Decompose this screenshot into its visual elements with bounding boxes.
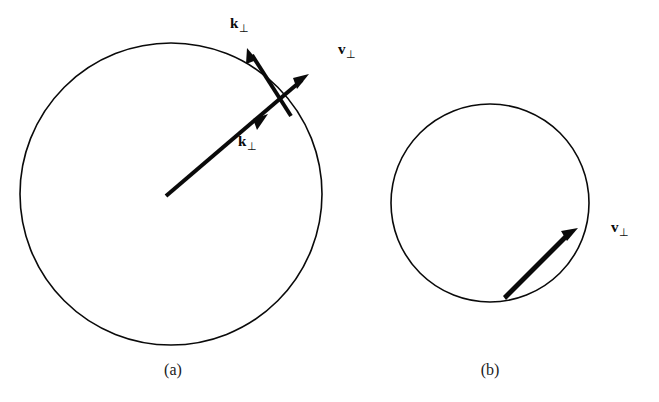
panel-a-v-perp-label: v⊥ (338, 42, 356, 60)
perp-subscript: ⊥ (346, 48, 356, 60)
panel-a-k-perp-radial-label: k⊥ (238, 134, 257, 152)
k-symbol: k (238, 133, 247, 149)
panel-b-circle (391, 104, 589, 302)
perp-subscript: ⊥ (619, 226, 629, 238)
figure-vector-graphics (0, 0, 659, 402)
v-symbol: v (611, 219, 619, 235)
v-symbol: v (338, 41, 346, 57)
v-perp-tangent-arrow (503, 228, 578, 300)
perp-subscript: ⊥ (239, 22, 249, 34)
panel-b-caption: (b) (481, 361, 500, 379)
panel-b-v-perp-label: v⊥ (611, 220, 629, 238)
perp-subscript: ⊥ (247, 140, 257, 152)
figure-canvas: k⊥ v⊥ k⊥ v⊥ (a) (b) (0, 0, 659, 402)
k-symbol: k (230, 15, 239, 31)
panel-a-caption: (a) (164, 361, 182, 379)
panel-a-graphics (20, 43, 322, 345)
panel-b-graphics (391, 104, 589, 302)
k-perp-tangential-arrow (246, 48, 291, 116)
panel-a-k-perp-tangential-label: k⊥ (230, 16, 249, 34)
